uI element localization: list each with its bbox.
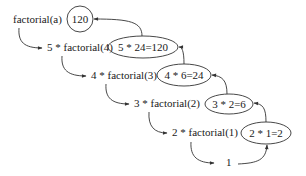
result-120: 120 bbox=[72, 13, 89, 25]
call-arrow-2 bbox=[62, 56, 86, 76]
result-2-1-2: 2 * 1=2 bbox=[249, 127, 283, 139]
return-arrow-2 bbox=[254, 103, 266, 122]
call-arrow-5 bbox=[191, 142, 214, 163]
call-arrow-4 bbox=[149, 112, 167, 133]
call-base-1: 1 bbox=[226, 156, 232, 168]
return-arrow-4 bbox=[179, 47, 184, 64]
call-arrow-3 bbox=[106, 84, 129, 104]
result-4-6-24: 4 * 6=24 bbox=[164, 69, 204, 81]
result-3-2-6: 3 * 2=6 bbox=[212, 98, 246, 110]
return-arrow-3 bbox=[212, 75, 227, 94]
call-5-factorial-4: 5 * factorial(4) bbox=[47, 41, 113, 54]
return-arrow-5 bbox=[94, 19, 142, 36]
call-3-factorial-2: 3 * factorial(2) bbox=[134, 97, 200, 110]
factorial-diagram: factorial(a) 5 * factorial(4) 4 * factor… bbox=[0, 0, 306, 176]
call-2-factorial-1: 2 * factorial(1) bbox=[172, 126, 238, 139]
call-factorial-a: factorial(a) bbox=[13, 13, 62, 26]
call-arrow-1 bbox=[19, 28, 42, 48]
call-4-factorial-3: 4 * factorial(3) bbox=[91, 69, 157, 82]
return-arrow-1 bbox=[238, 145, 267, 164]
result-5-24-120: 5 * 24=120 bbox=[118, 41, 169, 53]
